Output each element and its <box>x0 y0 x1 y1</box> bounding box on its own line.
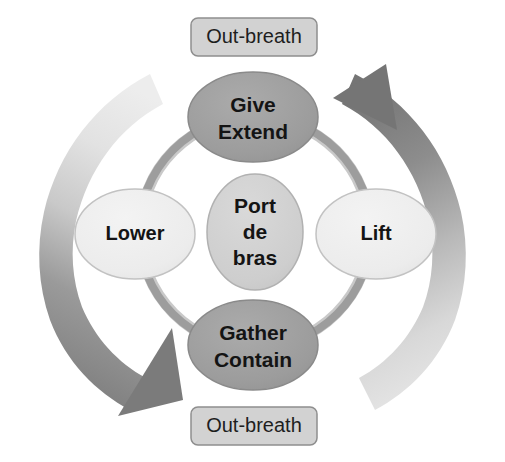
node-port-de-bras[interactable]: Port de bras <box>207 174 303 290</box>
node-lift-label: Lift <box>360 222 391 244</box>
breath-box-top[interactable]: Out-breath <box>191 18 317 56</box>
port-de-bras-cycle-diagram: Lower Lift Give Extend Gather Contain Po… <box>0 0 505 462</box>
node-lower[interactable]: Lower <box>75 189 195 279</box>
node-give-extend-label-line2: Extend <box>218 120 288 143</box>
node-gather-contain-label-line1: Gather <box>219 321 287 344</box>
breath-box-top-label: Out-breath <box>206 25 302 47</box>
node-port-de-bras-label-line3: bras <box>233 246 277 269</box>
node-give-extend-label-line1: Give <box>230 93 276 116</box>
node-port-de-bras-label-line2: de <box>243 220 268 243</box>
node-port-de-bras-label-line1: Port <box>234 194 276 217</box>
node-lower-label: Lower <box>106 222 165 244</box>
node-gather-contain-ellipse[interactable] <box>188 300 318 390</box>
breath-box-bottom[interactable]: Out-breath <box>191 407 317 445</box>
node-gather-contain-label-line2: Contain <box>214 348 292 371</box>
node-gather-contain[interactable]: Gather Contain <box>188 300 318 390</box>
node-give-extend-ellipse[interactable] <box>188 72 318 162</box>
diagram-canvas: Lower Lift Give Extend Gather Contain Po… <box>0 0 505 462</box>
breath-box-bottom-label: Out-breath <box>206 414 302 436</box>
node-lift[interactable]: Lift <box>316 189 436 279</box>
node-give-extend[interactable]: Give Extend <box>188 72 318 162</box>
